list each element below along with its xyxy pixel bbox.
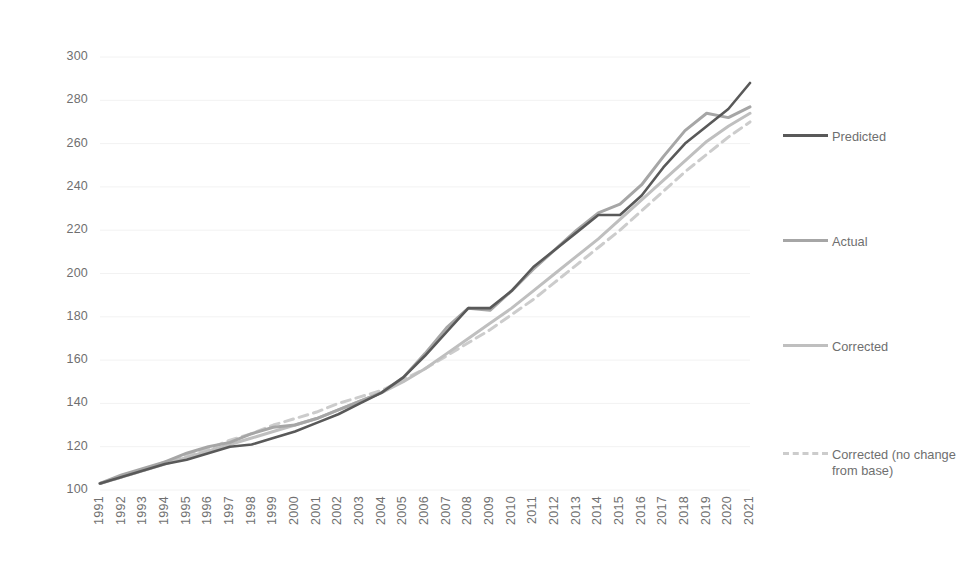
- x-tick-label: 2011: [526, 496, 539, 524]
- legend-label-corrected: Corrected: [832, 338, 888, 355]
- x-tick-label: 2010: [505, 496, 518, 525]
- legend-label-corrected-no-change: Corrected (no change from base): [832, 446, 979, 480]
- legend-item-corrected-no-change[interactable]: Corrected (no change from base): [783, 446, 979, 480]
- x-tick-label: 1995: [180, 496, 193, 525]
- x-tick-label: 2009: [483, 496, 496, 525]
- x-tick-label: 2019: [700, 496, 713, 525]
- legend-item-predicted[interactable]: Predicted: [783, 128, 979, 145]
- x-tick-label: 2012: [548, 496, 561, 525]
- series-line-corrected-no-change-from-base: [100, 122, 750, 484]
- y-tick-label: 100: [48, 483, 88, 496]
- x-tick-label: 2000: [288, 496, 301, 525]
- x-tick-label: 2008: [461, 496, 474, 525]
- legend-label-actual: Actual: [832, 233, 868, 250]
- legend-item-corrected[interactable]: Corrected: [783, 338, 979, 355]
- x-tick-label: 2018: [678, 496, 691, 525]
- y-tick-label: 300: [48, 50, 88, 63]
- series-line-actual: [100, 107, 750, 484]
- x-tick-label: 2016: [635, 496, 648, 525]
- legend-line-swatch-predicted: [783, 128, 828, 142]
- x-tick-label: 2001: [310, 496, 323, 525]
- x-tick-label: 1992: [115, 496, 128, 525]
- y-tick-label: 200: [48, 267, 88, 280]
- legend-label-predicted: Predicted: [832, 128, 886, 145]
- x-tick-label: 1993: [136, 496, 149, 525]
- x-tick-label: 2017: [656, 496, 669, 525]
- x-tick-label: 1994: [158, 496, 171, 525]
- y-tick-label: 220: [48, 223, 88, 236]
- x-tick-label: 2005: [396, 496, 409, 525]
- legend-line-swatch-corrected-no-change: [783, 446, 828, 460]
- x-tick-label: 2021: [743, 496, 756, 525]
- y-tick-label: 180: [48, 310, 88, 323]
- x-tick-label: 2004: [375, 496, 388, 525]
- y-tick-label: 260: [48, 137, 88, 150]
- legend-line-swatch-actual: [783, 233, 828, 247]
- x-tick-label: 2014: [591, 496, 604, 525]
- x-tick-label: 1998: [245, 496, 258, 525]
- y-tick-label: 160: [48, 353, 88, 366]
- x-tick-label: 2020: [721, 496, 734, 525]
- series-line-predicted: [100, 83, 750, 484]
- gridlines: [100, 57, 750, 490]
- line-chart: 100120140160180200220240260280300 199119…: [0, 0, 979, 564]
- legend-line-swatch-corrected: [783, 338, 828, 352]
- x-tick-label: 1991: [93, 496, 106, 525]
- x-tick-label: 1999: [266, 496, 279, 525]
- data-series-layer: [100, 83, 750, 484]
- x-tick-label: 2003: [353, 496, 366, 525]
- x-tick-label: 1997: [223, 496, 236, 525]
- legend-item-actual[interactable]: Actual: [783, 233, 979, 250]
- y-tick-label: 280: [48, 93, 88, 106]
- y-tick-label: 240: [48, 180, 88, 193]
- y-tick-label: 140: [48, 396, 88, 409]
- x-tick-label: 1996: [201, 496, 214, 525]
- x-tick-label: 2006: [418, 496, 431, 525]
- x-tick-label: 2015: [613, 496, 626, 525]
- x-tick-label: 2002: [331, 496, 344, 525]
- x-tick-label: 2013: [570, 496, 583, 525]
- y-tick-label: 120: [48, 440, 88, 453]
- x-tick-label: 2007: [440, 496, 453, 525]
